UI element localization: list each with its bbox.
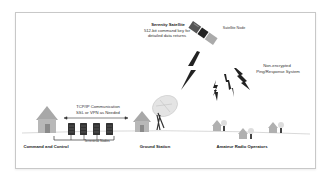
amateur-radio-label: Amateur Radio Operators	[212, 144, 272, 149]
terrestrial-nodes-label: Terrestrial Nodes	[78, 139, 116, 144]
tcpip-line1: TCP/IP Communication	[70, 104, 126, 109]
ground-line	[22, 131, 310, 134]
satellite-desc-line2: detailed data returns	[132, 33, 202, 38]
amateur-radio-houses-icons	[212, 120, 284, 139]
satellite-title: Serenity Satellite	[141, 22, 195, 27]
tcpip-line2: SSL or VPN as Needed	[70, 110, 126, 115]
satellite-node-label: Satellite Node	[214, 26, 254, 31]
tcpip-arrow-icon	[64, 117, 128, 119]
lightning-bolt-icons	[181, 51, 250, 101]
ground-station-label: Ground Station	[135, 144, 175, 149]
diagram-canvas	[0, 0, 332, 180]
ground-station-house-icon	[133, 111, 151, 132]
non-encrypted-line2: Ping/Response System	[250, 69, 306, 74]
non-encrypted-line1: Non-encrypted	[252, 63, 302, 68]
command-control-house-icon	[36, 106, 58, 133]
satellite-dish-icon	[149, 91, 181, 130]
command-control-label: Command and Control	[22, 144, 70, 149]
